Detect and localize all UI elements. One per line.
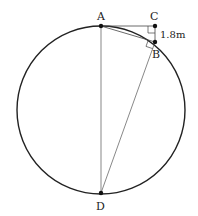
segment-BD: [101, 42, 155, 193]
geometry-diagram: A C B D 1.8m: [0, 0, 198, 216]
label-A: A: [96, 10, 106, 23]
point-A: [99, 24, 103, 28]
point-D: [99, 191, 103, 195]
point-C: [153, 24, 157, 28]
label-C: C: [150, 10, 158, 23]
segment-AB: [101, 26, 155, 42]
label-B: B: [152, 48, 160, 61]
point-B: [153, 40, 157, 44]
measurement-CB: 1.8m: [160, 29, 186, 40]
label-D: D: [96, 200, 105, 213]
